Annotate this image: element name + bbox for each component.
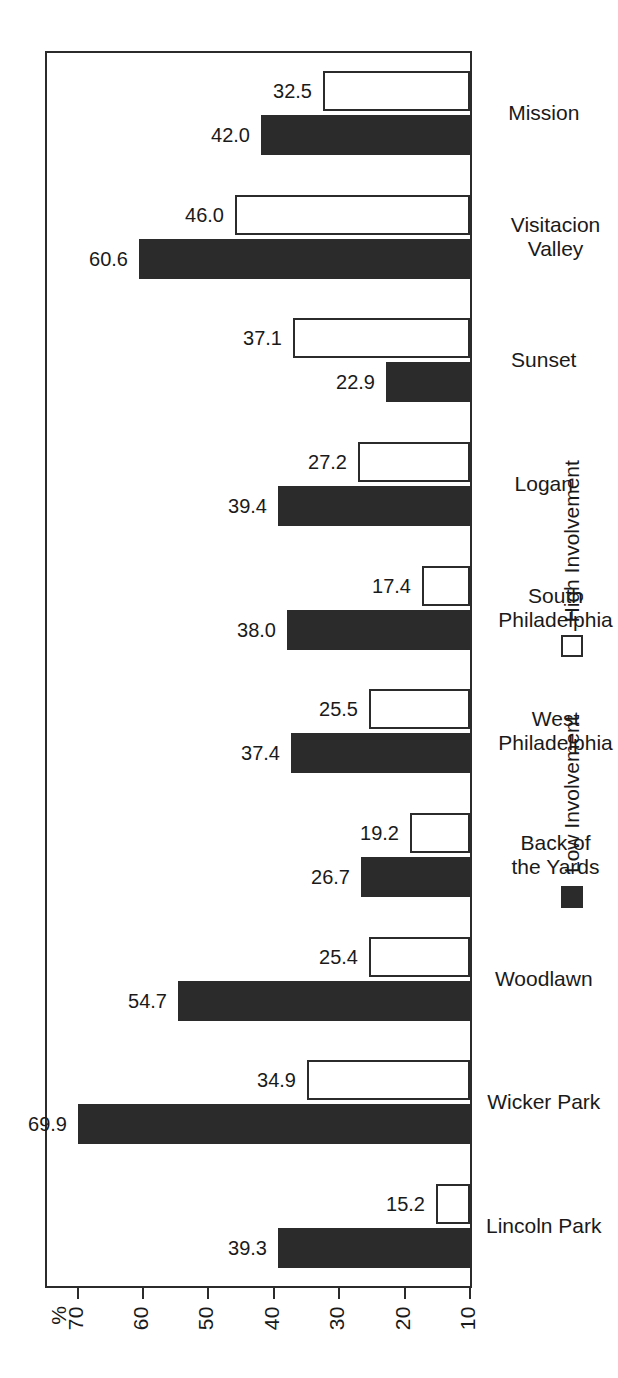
open-square-icon	[561, 635, 583, 657]
legend-item: Low Involvement	[560, 715, 584, 908]
bar-high-involvement	[436, 1184, 470, 1224]
axis-tick-label: 30	[325, 1306, 349, 1358]
bar-value-label: 17.4	[361, 574, 421, 597]
bar-value-label: 34.9	[247, 1069, 307, 1092]
bar-high-involvement	[293, 318, 470, 358]
axis-tick	[77, 1288, 79, 1299]
bar-high-involvement	[358, 442, 470, 482]
bar-low-involvement	[178, 981, 470, 1021]
axis-tick	[404, 1288, 406, 1299]
axis-tick-label: 50	[194, 1306, 218, 1358]
filled-square-icon	[561, 886, 583, 908]
bar-low-involvement	[78, 1104, 470, 1144]
axis-unit-label: %	[47, 1306, 71, 1358]
category-label: Woodlawn	[469, 967, 618, 991]
bar-low-involvement	[278, 486, 470, 526]
axis-tick	[207, 1288, 209, 1299]
bar-value-label: 42.0	[200, 123, 260, 146]
category-label: Sunset	[469, 348, 618, 372]
bar-value-label: 25.5	[308, 698, 368, 721]
bar-value-label: 27.2	[297, 450, 357, 473]
bar-high-involvement	[323, 71, 470, 111]
bar-value-label: 26.7	[300, 866, 360, 889]
bar-low-involvement	[291, 733, 470, 773]
bar-value-label: 69.9	[18, 1113, 78, 1136]
bar-value-label: 32.5	[262, 79, 322, 102]
bar-high-involvement	[235, 195, 470, 235]
plot-frame	[45, 51, 470, 1288]
axis-tick-label: 20	[391, 1306, 415, 1358]
category-label: Mission	[469, 101, 618, 125]
category-label: South Philadelphia	[481, 584, 618, 631]
bar-value-label: 39.3	[218, 1237, 278, 1260]
axis-tick-label: 10	[456, 1306, 480, 1358]
bar-value-label: 22.9	[325, 371, 385, 394]
bar-value-label: 38.0	[226, 618, 286, 641]
bar-high-involvement	[422, 566, 470, 606]
bar-chart-figure: 70605040302010% 39.315.269.934.954.725.4…	[0, 0, 618, 1378]
bar-value-label: 25.4	[309, 945, 369, 968]
category-label: Visitacion Valley	[481, 213, 618, 260]
bar-low-involvement	[386, 362, 470, 402]
bar-value-label: 37.1	[232, 327, 292, 350]
axis-tick	[338, 1288, 340, 1299]
bar-low-involvement	[278, 1228, 470, 1268]
bar-value-label: 19.2	[349, 822, 409, 845]
axis-tick-label: 40	[260, 1306, 284, 1358]
bar-high-involvement	[369, 689, 470, 729]
category-label: Back of the Yards	[481, 832, 618, 879]
chart-legend: Low InvolvementHigh Involvement	[560, 460, 584, 908]
bar-low-involvement	[361, 857, 470, 897]
bar-value-label: 54.7	[117, 989, 177, 1012]
bar-low-involvement	[261, 115, 470, 155]
bar-low-involvement	[287, 610, 470, 650]
bar-low-involvement	[139, 239, 470, 279]
bar-high-involvement	[410, 813, 470, 853]
bar-value-label: 15.2	[376, 1193, 436, 1216]
bar-high-involvement	[307, 1060, 470, 1100]
category-label: Wicker Park	[469, 1091, 618, 1115]
bar-value-label: 46.0	[174, 203, 234, 226]
bar-value-label: 60.6	[79, 247, 139, 270]
category-label: West Philadelphia	[481, 708, 618, 755]
legend-label: Low Involvement	[560, 715, 584, 873]
legend-label: High Involvement	[560, 460, 584, 622]
rotated-figure-wrapper: 70605040302010% 39.315.269.934.954.725.4…	[0, 0, 618, 1378]
axis-tick	[142, 1288, 144, 1299]
bar-high-involvement	[369, 937, 470, 977]
axis-tick	[469, 1288, 471, 1299]
axis-tick-label: 60	[129, 1306, 153, 1358]
category-label: Logan	[469, 472, 618, 496]
axis-tick	[273, 1288, 275, 1299]
bar-value-label: 37.4	[230, 742, 290, 765]
category-label: Lincoln Park	[469, 1214, 618, 1238]
bar-value-label: 39.4	[217, 494, 277, 517]
legend-item: High Involvement	[560, 460, 584, 657]
